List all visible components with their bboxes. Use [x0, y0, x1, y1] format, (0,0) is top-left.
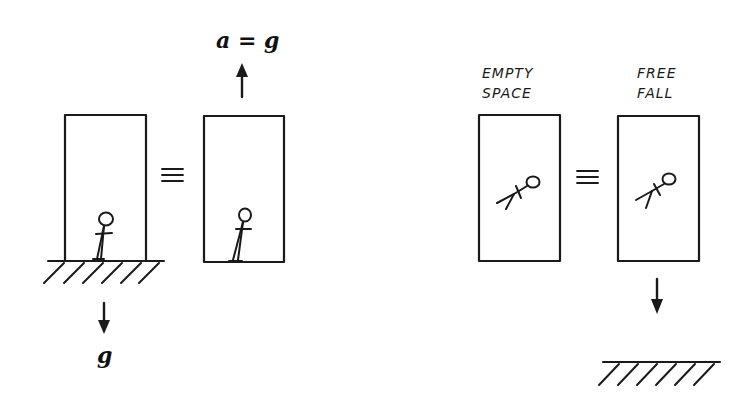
acceleration-label: a = g — [216, 27, 279, 53]
arrow-down-icon — [651, 279, 663, 314]
gravity-label: g — [97, 342, 112, 368]
arrow-up-icon — [236, 63, 248, 97]
empty-space-box — [479, 115, 560, 261]
gravity-panel: a = g g — [44, 27, 284, 368]
free-fall-label-line1: FREE — [637, 65, 676, 81]
equivalence-sign — [162, 169, 183, 181]
ground-hatching-icon — [599, 362, 720, 385]
equivalence-sign — [577, 171, 598, 183]
floating-person-icon — [636, 174, 676, 209]
standing-person-icon — [93, 213, 113, 260]
empty-space-label-line1: EMPTY — [482, 65, 534, 81]
freefall-panel: EMPTY SPACE FREE FALL — [479, 65, 720, 385]
free-fall-label-line2: FALL — [637, 85, 673, 101]
floating-person-icon — [497, 177, 540, 210]
empty-space-label-line2: SPACE — [482, 85, 532, 101]
standing-person-icon — [229, 209, 251, 262]
ground-hatching-icon — [44, 261, 164, 283]
arrow-down-icon — [98, 303, 110, 334]
equivalence-principle-diagram: a = g g EMPTY SPACE FREE FALL — [0, 0, 751, 399]
accelerating-elevator-box — [204, 116, 284, 262]
elevator-box-on-ground — [65, 115, 146, 261]
free-fall-box — [618, 116, 699, 261]
